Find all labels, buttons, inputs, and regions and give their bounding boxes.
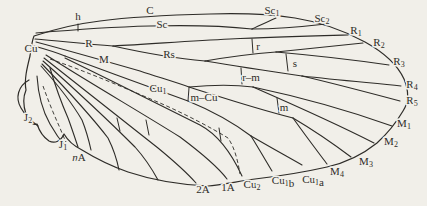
label-na: nA <box>72 151 86 163</box>
label-xv-mcu: m–Cu <box>191 91 218 103</box>
label-xv-s: s <box>293 57 297 69</box>
label-1a: 1A <box>221 181 235 193</box>
label-cu: Cu <box>25 42 38 54</box>
label-xv-m: m <box>280 101 289 113</box>
label-2a: 2A <box>196 183 210 195</box>
label-xv-r: r <box>256 40 260 52</box>
label-sc: Sc <box>157 18 168 30</box>
label-xv-rm: r–m <box>242 71 260 83</box>
wing-venation-figure: hCScSc1Sc2R1R2R3R4R5M1M2M3M4Cu1aCu1bCu21… <box>0 0 427 206</box>
label-h: h <box>75 10 81 22</box>
label-m: M <box>99 53 109 65</box>
label-r: R <box>85 37 93 49</box>
label-rs: Rs <box>163 48 175 60</box>
wing-diagram-canvas: hCScSc1Sc2R1R2R3R4R5M1M2M3M4Cu1aCu1bCu21… <box>0 0 427 206</box>
label-c: C <box>146 4 153 16</box>
